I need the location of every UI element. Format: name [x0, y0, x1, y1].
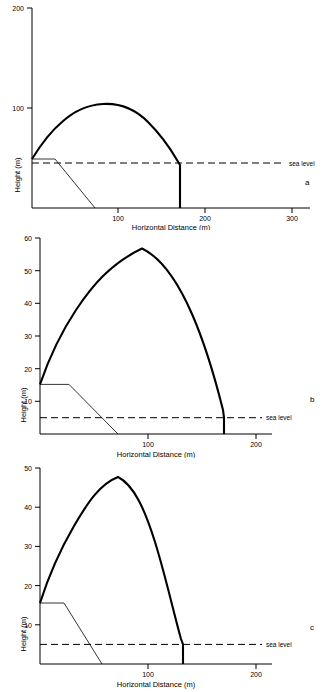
- beach-profile-figure: 200 100 100 200 300 sea level Horizontal…: [0, 0, 336, 692]
- panel-b-original-surface: [40, 384, 118, 434]
- panel-c-letter: c: [310, 623, 314, 632]
- panel-c-yticklabel-50: 50: [24, 465, 32, 472]
- panel-b-yticklabel-60: 60: [24, 235, 32, 242]
- panel-a-xticklabel-200: 200: [199, 215, 211, 222]
- panel-a-beach-profile: [32, 104, 180, 208]
- panel-a-xaxis-title: Horizontal Distance (m): [132, 223, 211, 230]
- chart-panel-c: 50 40 30 20 10 100 200 sea level Horizon…: [0, 458, 336, 692]
- panel-c-beach-profile: [40, 477, 183, 664]
- panel-c-axes: [40, 468, 272, 664]
- panel-a-original-surface: [32, 159, 95, 208]
- panel-b-sea-level-label: sea level: [266, 414, 292, 421]
- panel-a-axes: [32, 8, 310, 208]
- panel-c-xaxis-title: Horizontal Distance (m): [117, 680, 196, 689]
- panel-b-beach-profile: [40, 249, 224, 435]
- panel-a-yticklabel-100: 100: [12, 105, 24, 112]
- panel-b-xticklabel-100: 100: [142, 441, 154, 448]
- panel-c-sea-level-label: sea level: [266, 641, 292, 648]
- chart-panel-b: 60 50 40 30 20 10 100 200 sea level Hori…: [0, 230, 336, 458]
- panel-c-xticklabel-100: 100: [142, 671, 154, 678]
- panel-b-yaxis-title: Height (m): [19, 387, 28, 423]
- panel-b-yticklabel-20: 20: [24, 366, 32, 373]
- panel-c-plot: 50 40 30 20 10 100 200 sea level Horizon…: [0, 458, 336, 692]
- panel-c-yticklabel-20: 20: [24, 583, 32, 590]
- panel-c-yticklabel-40: 40: [24, 504, 32, 511]
- panel-b-yticklabel-50: 50: [24, 268, 32, 275]
- panel-b-yticklabel-30: 30: [24, 333, 32, 340]
- panel-c-xticklabel-200: 200: [250, 671, 262, 678]
- panel-a-yaxis-title: Height (m): [13, 157, 22, 193]
- panel-b-axes: [40, 238, 272, 434]
- panel-a-xticklabel-100: 100: [112, 215, 124, 222]
- panel-c-original-surface: [40, 603, 102, 664]
- panel-b-xticklabel-200: 200: [250, 441, 262, 448]
- panel-b-plot: 60 50 40 30 20 10 100 200 sea level Hori…: [0, 230, 336, 458]
- chart-panel-a: 200 100 100 200 300 sea level Horizontal…: [0, 0, 336, 230]
- panel-b-letter: b: [310, 395, 315, 404]
- panel-c-yaxis-title: Height (m): [19, 616, 28, 652]
- panel-b-yticklabel-40: 40: [24, 300, 32, 307]
- panel-c-yticklabel-30: 30: [24, 543, 32, 550]
- panel-b-xaxis-title: Horizontal Distance (m): [117, 450, 196, 458]
- panel-a-yticklabel-200: 200: [12, 5, 24, 12]
- panel-a-letter: a: [305, 178, 310, 187]
- panel-a-plot: 200 100 100 200 300 sea level Horizontal…: [0, 0, 336, 230]
- panel-a-sea-level-label: sea level: [289, 160, 315, 167]
- panel-a-xticklabel-300: 300: [286, 215, 298, 222]
